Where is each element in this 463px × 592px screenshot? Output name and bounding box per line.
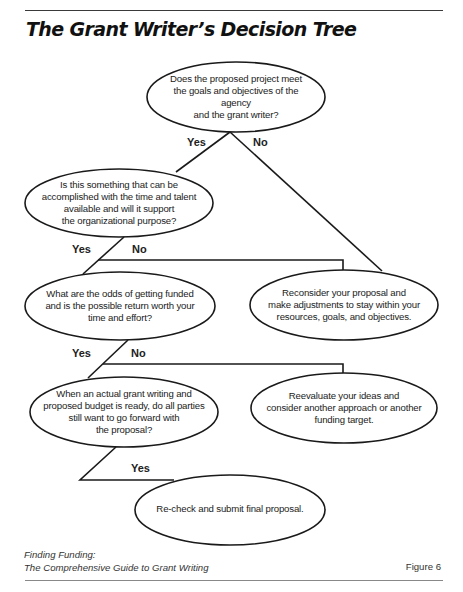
source-citation: Finding Funding: The Comprehensive Guide… bbox=[24, 548, 209, 574]
label-q1-no: No bbox=[253, 136, 268, 148]
edge-q3-yes bbox=[88, 340, 128, 378]
label-q3-no: No bbox=[131, 347, 146, 359]
edge-q4-yes bbox=[80, 447, 174, 480]
edge-q3-no bbox=[103, 364, 343, 373]
node-q3-text: What are the odds of getting funded and … bbox=[28, 276, 212, 336]
label-q2-yes: Yes bbox=[72, 243, 91, 255]
label-q1-yes: Yes bbox=[187, 136, 206, 148]
node-q2-text: Is this something that can be accomplish… bbox=[28, 172, 210, 234]
edge-q1-no bbox=[230, 132, 382, 271]
figure-label: Figure 6 bbox=[406, 561, 441, 572]
node-r1-text: Reconsider your proposal and make adjust… bbox=[252, 275, 436, 335]
bottom-rule bbox=[25, 580, 443, 581]
label-q3-yes: Yes bbox=[72, 347, 91, 359]
node-r2-text: Reevaluate your ideas and consider anoth… bbox=[253, 378, 435, 438]
source-line-2: The Comprehensive Guide to Grant Writing bbox=[24, 561, 209, 574]
label-q2-no: No bbox=[132, 243, 147, 255]
node-q4-text: When an actual grant writing and propose… bbox=[32, 380, 216, 444]
edge-q2-no bbox=[98, 260, 343, 270]
label-q4-yes: Yes bbox=[131, 462, 150, 474]
source-line-1: Finding Funding: bbox=[24, 548, 209, 561]
node-r3-text: Re-check and submit final proposal. bbox=[138, 496, 322, 522]
node-q1-text: Does the proposed project meet the goals… bbox=[150, 67, 322, 127]
